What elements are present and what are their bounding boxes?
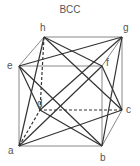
vertex-label-g: g bbox=[123, 23, 129, 33]
vertex-label-h: h bbox=[40, 23, 46, 33]
diagonal-fc bbox=[102, 66, 122, 110]
vertex-label-d: d bbox=[37, 99, 43, 109]
vertex-label-b: b bbox=[100, 153, 106, 163]
vertex-label-a: a bbox=[8, 146, 14, 156]
bcc-cube-diagram bbox=[0, 0, 140, 166]
diagonal-ah bbox=[19, 37, 44, 146]
vertex-label-f: f bbox=[106, 58, 109, 68]
vertex-label-c: c bbox=[126, 105, 131, 115]
vertex-label-e: e bbox=[7, 61, 13, 71]
diagonal-hf bbox=[44, 37, 102, 66]
diagonal-bg bbox=[102, 37, 122, 146]
